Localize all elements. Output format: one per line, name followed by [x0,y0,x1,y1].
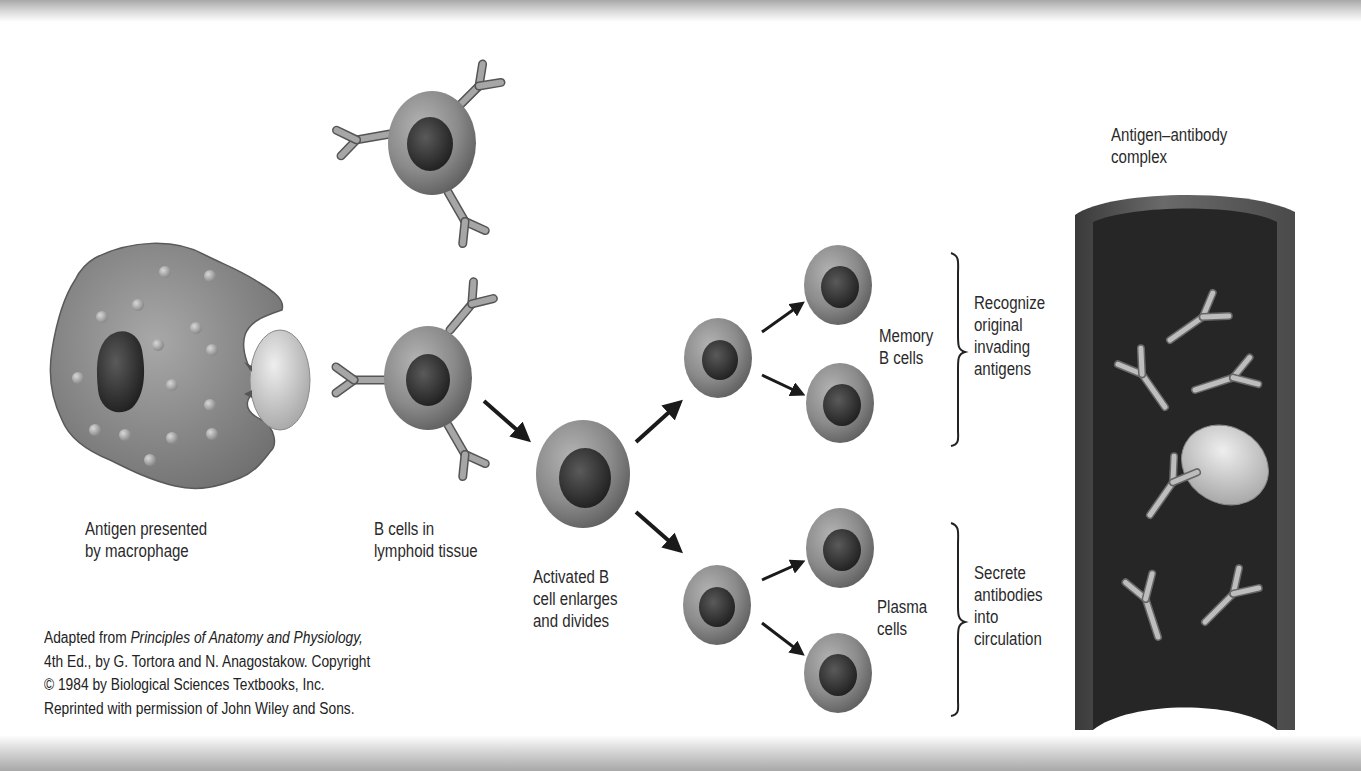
label-line: Secrete [974,562,1043,584]
daughter-cell-icon [683,565,751,645]
figure-credit: Adapted from Principles of Anatomy and P… [44,626,370,720]
label-line: by macrophage [85,540,207,562]
memory-b-cell-icon [804,245,872,325]
arrow-icon [762,305,800,332]
label-line: antigens [974,358,1045,380]
arrow-icon [484,401,525,437]
macrophage-nucleus-icon [97,331,144,412]
memory-role-label: Recognize original invading antigens [974,292,1045,380]
activated-b-cell-label: Activated B cell enlarges and divides [533,566,617,632]
credit-line-3: © 1984 by Biological Sciences Textbooks,… [44,673,370,697]
arrow-icon [762,563,800,580]
b-cell-bound-icon [336,282,493,477]
arrow-icon [636,512,677,548]
book-title: Principles of Anatomy and Physiology, [130,629,363,646]
label-line: antibodies [974,584,1043,606]
credit-line-4: Reprinted with permission of John Wiley … [44,697,370,721]
plasma-brace-icon [951,523,965,716]
arrow-icon [636,405,677,442]
label-line: Recognize [974,292,1045,314]
label-line: invading [974,336,1045,358]
daughter-cell-icon [684,318,752,398]
memory-b-cell-icon [806,363,874,443]
memory-brace-icon [951,253,965,446]
plasma-cell-icon [804,633,872,713]
credit-line-1: Adapted from Principles of Anatomy and P… [44,626,370,650]
complex-label: Antigen–antibody complex [1111,124,1227,168]
label-line: Memory [879,325,933,347]
label-line: Plasma [877,596,927,618]
credit-line-2: 4th Ed., by G. Tortora and N. Anagostako… [44,650,370,674]
label-line: lymphoid tissue [374,540,478,562]
label-line: cell enlarges [533,588,617,610]
label-line: circulation [974,628,1043,650]
label-line: Activated B [533,566,617,588]
label-line: Antigen presented [85,518,207,540]
b-cell-icon [337,64,501,243]
label-line: complex [1111,146,1227,168]
arrow-icon [762,623,800,652]
activated-b-cell-icon [536,420,630,528]
plasma-role-label: Secrete antibodies into circulation [974,562,1043,650]
arrow-icon [762,375,800,393]
label-line: Antigen–antibody [1111,124,1227,146]
plasma-cells-label: Plasma cells [877,596,927,640]
label-line: B cells [879,347,933,369]
macrophage-label: Antigen presented by macrophage [85,518,207,562]
label-line: into [974,606,1043,628]
label-line: original [974,314,1045,336]
label-line: cells [877,618,927,640]
blood-vessel-icon [1075,195,1295,730]
label-line: and divides [533,610,617,632]
memory-b-cells-label: Memory B cells [879,325,933,369]
label-line: B cells in [374,518,478,540]
plasma-cell-icon [806,508,874,588]
b-cells-label: B cells in lymphoid tissue [374,518,478,562]
